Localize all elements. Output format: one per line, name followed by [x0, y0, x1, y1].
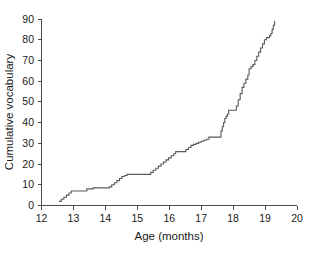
x-tick-label: 14 — [100, 212, 112, 224]
x-tick-label: 18 — [227, 212, 239, 224]
cumulative-vocabulary-line-chart: 0102030405060708090 121314151617181920 A… — [0, 0, 327, 254]
y-tick-label: 40 — [22, 116, 34, 128]
y-tick-label: 70 — [22, 54, 34, 66]
x-tick-label: 13 — [68, 212, 80, 224]
x-tick-label: 20 — [291, 212, 303, 224]
chart-figure: 0102030405060708090 121314151617181920 A… — [0, 0, 327, 254]
y-tick-label: 60 — [22, 75, 34, 87]
y-tick-label: 90 — [22, 13, 34, 25]
y-tick-label: 20 — [22, 158, 34, 170]
y-tick-label: 50 — [22, 95, 34, 107]
x-tick-label: 15 — [131, 212, 143, 224]
y-axis-title: Cumulative vocabulary — [3, 54, 15, 171]
x-tick-label: 17 — [195, 212, 207, 224]
y-tick-label: 0 — [28, 199, 34, 211]
x-tick-label: 12 — [36, 212, 48, 224]
y-tick-label: 80 — [22, 33, 34, 45]
x-axis-title: Age (months) — [134, 230, 203, 242]
x-tick-label: 19 — [259, 212, 271, 224]
y-tick-label: 30 — [22, 137, 34, 149]
y-tick-label: 10 — [22, 178, 34, 190]
x-tick-label: 16 — [163, 212, 175, 224]
